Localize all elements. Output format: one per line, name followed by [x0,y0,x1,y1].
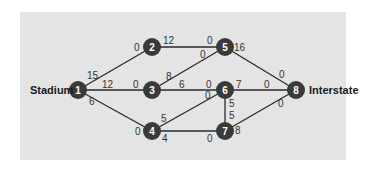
edge-6-7-cap-end: 5 [229,110,235,121]
svg-text:1: 1 [75,85,81,96]
svg-text:2: 2 [149,42,155,53]
edge-3-5 [152,47,225,90]
edge-4-6-cap-end: 0 [205,90,211,101]
svg-text:8: 8 [293,85,299,96]
source-label: Stadium [30,84,74,96]
edge-1-3-cap-start: 12 [102,79,114,90]
edge-1-2 [78,47,152,90]
edge-6-8-cap-start: 7 [236,79,242,90]
edge-3-6-cap-end: 0 [206,79,212,90]
edge-5-8-cap-end: 0 [279,69,285,80]
edge-1-2-cap-end: 0 [134,42,140,53]
svg-text:7: 7 [222,126,228,137]
edge-1-4-cap-end: 0 [135,126,141,137]
edge-1-4-cap-start: 6 [89,96,95,107]
node-7: 7 [216,122,234,140]
edge-3-5-cap-start: 8 [166,71,172,82]
edge-7-8-cap-start: 8 [235,125,241,136]
node-4: 4 [143,122,161,140]
edge-5-8-cap-start: 16 [234,42,246,53]
edge-6-8-cap-end: 0 [264,79,270,90]
node-8: 8 [287,81,305,99]
edge-7-8-cap-end: 0 [278,98,284,109]
svg-text:4: 4 [149,126,155,137]
edge-4-6-cap-start: 5 [161,113,167,124]
edge-4-7-cap-start: 4 [162,133,168,144]
network-diagram: 15 0 12 0 6 0 12 0 8 0 6 0 5 0 4 0 16 0 … [0,0,376,172]
svg-text:6: 6 [222,85,228,96]
sink-label: Interstate [309,84,359,96]
edge-2-5-cap-end: 0 [207,35,213,46]
node-6: 6 [216,81,234,99]
edge-4-7-cap-end: 0 [207,133,213,144]
edge-3-6-cap-start: 6 [179,79,185,90]
edge-2-5-cap-start: 12 [163,35,175,46]
node-2: 2 [143,38,161,56]
svg-text:3: 3 [149,85,155,96]
svg-text:5: 5 [222,42,228,53]
edge-1-2-cap-start: 15 [87,70,99,81]
edge-1-3-cap-end: 0 [133,79,139,90]
node-3: 3 [143,81,161,99]
edge-3-5-cap-end: 0 [200,49,206,60]
node-5: 5 [216,38,234,56]
edge-4-6 [152,90,225,131]
edge-6-7-cap-start: 5 [229,98,235,109]
